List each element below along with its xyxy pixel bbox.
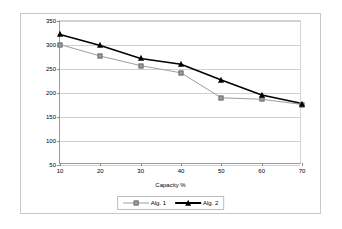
plot-area: 50100150200250300350 10203040506070 [59,20,301,164]
data-point-alg--1-40 [179,70,184,75]
gridline: 50 [60,165,300,166]
data-point-alg--2-70 [299,100,305,106]
chart-frame: 50100150200250300350 10203040506070 Capa… [20,13,321,214]
chart-legend: Alg. 1 Alg. 2 [117,196,225,210]
series-lines [60,21,302,165]
data-point-alg--2-20 [97,42,103,48]
y-axis-tick-label: 100 [46,138,56,144]
y-axis-tick-label: 250 [46,66,56,72]
y-axis-tick-label: 350 [46,18,56,24]
square-marker-icon [133,201,138,206]
data-point-alg--2-30 [138,55,144,61]
y-axis-tick-label: 150 [46,114,56,120]
x-axis-tick-label: 10 [57,168,64,174]
x-axis-tick-mark [302,163,303,166]
data-point-alg--2-50 [218,77,224,83]
data-point-alg--1-50 [219,95,224,100]
x-axis-tick-label: 50 [218,168,225,174]
legend-label-alg-2: Alg. 2 [203,200,218,206]
x-axis-tick-label: 60 [258,168,265,174]
data-point-alg--1-20 [98,54,103,59]
data-point-alg--1-10 [58,42,63,47]
x-axis-tick-label: 40 [178,168,185,174]
legend-swatch-alg-2 [175,199,201,207]
legend-swatch-alg-1 [123,199,149,207]
triangle-marker-icon [185,200,191,206]
x-axis-tick-label: 20 [97,168,104,174]
legend-label-alg-1: Alg. 1 [151,200,166,206]
data-point-alg--2-40 [178,61,184,67]
data-point-alg--1-30 [138,63,143,68]
x-axis-title: Capacity % [21,182,320,188]
series-line-2 [60,34,302,103]
y-axis-tick-label: 50 [49,162,56,168]
data-point-alg--2-10 [57,31,63,37]
x-axis-tick-label: 70 [299,168,306,174]
y-axis-tick-label: 300 [46,42,56,48]
legend-entry-alg-2[interactable]: Alg. 2 [175,199,218,207]
x-axis-tick-label: 30 [137,168,144,174]
legend-entry-alg-1[interactable]: Alg. 1 [123,199,166,207]
y-axis-tick-label: 200 [46,90,56,96]
data-point-alg--2-60 [259,92,265,98]
